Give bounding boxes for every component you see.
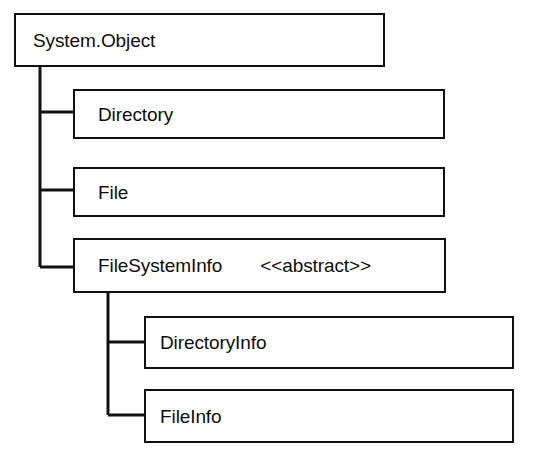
class-node-label: System.Object	[33, 31, 155, 50]
class-node-directory[interactable]: Directory	[73, 89, 445, 139]
class-node-filesysteminfo[interactable]: FileSystemInfo <<abstract>>	[73, 238, 446, 293]
class-node-file[interactable]: File	[73, 167, 445, 217]
class-node-system-object[interactable]: System.Object	[14, 13, 385, 67]
class-node-label: File	[98, 183, 128, 202]
class-node-label: FileSystemInfo	[98, 256, 222, 275]
class-node-fileinfo[interactable]: FileInfo	[144, 389, 514, 443]
class-node-directoryinfo[interactable]: DirectoryInfo	[144, 316, 514, 369]
class-node-label: DirectoryInfo	[160, 333, 266, 352]
class-node-label: Directory	[98, 105, 173, 124]
class-node-label: FileInfo	[160, 407, 222, 426]
stereotype-abstract-label: <<abstract>>	[260, 256, 371, 275]
class-hierarchy-diagram: System.Object Directory File FileSystemI…	[0, 0, 535, 465]
